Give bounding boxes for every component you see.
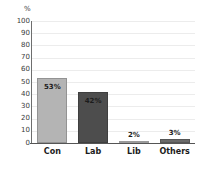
x-axis-label-lib: Lib [114, 147, 155, 157]
x-axis-label-con: Con [32, 147, 73, 157]
bar-slot-others: 3% [160, 21, 190, 143]
y-axis-tick-label: 0 [4, 140, 30, 147]
y-axis-tick-label: 40 [4, 91, 30, 98]
y-axis-tick-label: 90 [4, 30, 30, 37]
y-axis-tick-label: 80 [4, 42, 30, 49]
bar-lib [119, 141, 149, 143]
bar-value-label-others: 3% [160, 129, 190, 137]
y-axis-tick-labels: 1009080706050403020100 [0, 0, 30, 170]
bar-value-label-lab: 42% [79, 97, 107, 105]
x-axis-label-lab: Lab [73, 147, 114, 157]
bar-others [160, 139, 190, 143]
x-axis-category-labels: ConLabLibOthers [32, 147, 195, 163]
x-axis-label-others: Others [154, 147, 195, 157]
y-axis-tick-label: 70 [4, 54, 30, 61]
bar-con: 53% [37, 78, 67, 143]
bar-lab: 42% [78, 92, 108, 143]
x-axis-line [30, 143, 195, 144]
y-axis-tick-label: 60 [4, 66, 30, 73]
bar-value-label-lib: 2% [119, 131, 149, 139]
bar-chart: % 1009080706050403020100 53%42%2%3% ConL… [0, 0, 202, 170]
y-axis-tick-label: 20 [4, 115, 30, 122]
y-axis-tick-label: 30 [4, 103, 30, 110]
bar-value-label-con: 53% [38, 83, 66, 91]
bar-slot-lab: 42% [78, 21, 108, 143]
y-axis-tick-label: 50 [4, 79, 30, 86]
y-axis-tick-label: 10 [4, 127, 30, 134]
bar-series: 53%42%2%3% [32, 21, 195, 143]
y-axis-tick-label: 100 [4, 18, 30, 25]
bar-slot-con: 53% [37, 21, 67, 143]
bar-slot-lib: 2% [119, 21, 149, 143]
